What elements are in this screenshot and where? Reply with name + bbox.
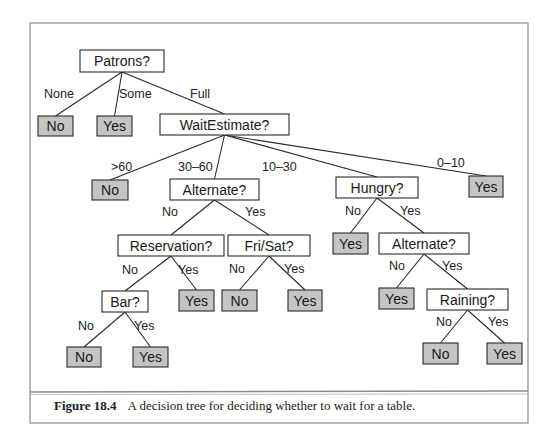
figure-container: NoneSomeFull>6030–6010–300–10NoYesNoYesN… [0, 0, 555, 444]
edge-label: Yes [442, 259, 462, 273]
edge-label: No [122, 263, 138, 277]
node-label: Alternate? [392, 236, 456, 252]
node-label: No [75, 349, 93, 365]
attribute-node-alternate2: Alternate? [379, 233, 469, 254]
leaf-node-leaf-rain-yes: Yes [487, 343, 522, 364]
tree-edge [225, 135, 378, 177]
attribute-node-raining: Raining? [427, 289, 508, 310]
edge-label: 10–30 [262, 160, 297, 174]
edge-label: 30–60 [178, 160, 213, 174]
edge-label: Full [190, 87, 210, 101]
edge-label: No [229, 262, 245, 276]
edge-label: >60 [111, 160, 132, 174]
edge-label: No [162, 205, 178, 219]
node-label: Hungry? [351, 180, 404, 196]
leaf-node-leaf-some: Yes [97, 116, 132, 136]
edge-label: Yes [245, 205, 265, 219]
edge-label: Yes [400, 204, 420, 218]
node-label: No [47, 118, 65, 134]
node-label: Yes [475, 179, 498, 195]
node-label: Alternate? [183, 182, 247, 198]
node-label: No [432, 346, 450, 362]
node-label: Yes [385, 291, 408, 307]
decision-tree-diagram: NoneSomeFull>6030–6010–300–10NoYesNoYesN… [0, 0, 555, 444]
leaf-node-leaf-bar-no: No [67, 347, 101, 367]
leaf-node-leaf-none: No [38, 116, 73, 136]
attribute-node-bar: Bar? [102, 291, 148, 312]
node-label: Bar? [110, 294, 140, 310]
node-label: Yes [339, 236, 362, 252]
caption-divider [30, 391, 528, 392]
leaf-node-leaf-alt2-no: Yes [379, 288, 414, 309]
figure-caption: Figure 18.4 A decision tree for deciding… [54, 398, 415, 414]
edge-label: Yes [488, 315, 508, 329]
node-label: Yes [294, 293, 317, 309]
node-label: Yes [139, 349, 162, 365]
edge-label: No [436, 315, 452, 329]
leaf-node-leaf-gt60: No [92, 180, 128, 200]
edge-label: Yes [134, 319, 154, 333]
caption-divider-inner [30, 394, 528, 395]
node-label: WaitEstimate? [180, 117, 270, 133]
node-label: Yes [493, 346, 516, 362]
edge-label: None [44, 87, 74, 101]
edge-label: No [78, 319, 94, 333]
leaf-node-leaf-rain-no: No [423, 343, 458, 364]
node-label: Raining? [440, 292, 495, 308]
edge-label: No [389, 259, 405, 273]
edge-label: Yes [178, 263, 198, 277]
attribute-node-frisat: Fri/Sat? [228, 235, 310, 256]
leaf-node-leaf-hungry-no: Yes [333, 233, 368, 254]
leaf-node-leaf-bar-yes: Yes [133, 347, 168, 367]
edge-label: Some [119, 87, 152, 101]
node-label: No [231, 293, 249, 309]
leaf-node-leaf-0-10: Yes [469, 176, 503, 197]
tree-edge [215, 135, 225, 179]
attribute-node-reservation: Reservation? [118, 235, 224, 256]
attribute-node-waitestimate: WaitEstimate? [160, 114, 289, 135]
attribute-node-patrons: Patrons? [80, 50, 164, 72]
node-label: Reservation? [130, 238, 213, 254]
leaf-node-leaf-frisat-yes: Yes [288, 290, 322, 311]
attribute-node-alternate1: Alternate? [170, 179, 259, 200]
node-label: Yes [185, 293, 208, 309]
edge-label: Yes [284, 262, 304, 276]
edge-label: No [345, 204, 361, 218]
figure-number: Figure 18.4 [54, 398, 125, 414]
node-label: Patrons? [94, 53, 150, 69]
node-label: Yes [103, 118, 126, 134]
edge-label: 0–10 [437, 156, 465, 170]
node-label: Fri/Sat? [244, 238, 293, 254]
figure-caption-text: A decision tree for deciding whether to … [128, 398, 416, 413]
leaf-node-leaf-frisat-no: No [222, 290, 257, 311]
leaf-node-leaf-res-yes: Yes [179, 290, 214, 311]
attribute-node-hungry: Hungry? [336, 177, 418, 198]
node-label: No [101, 182, 119, 198]
